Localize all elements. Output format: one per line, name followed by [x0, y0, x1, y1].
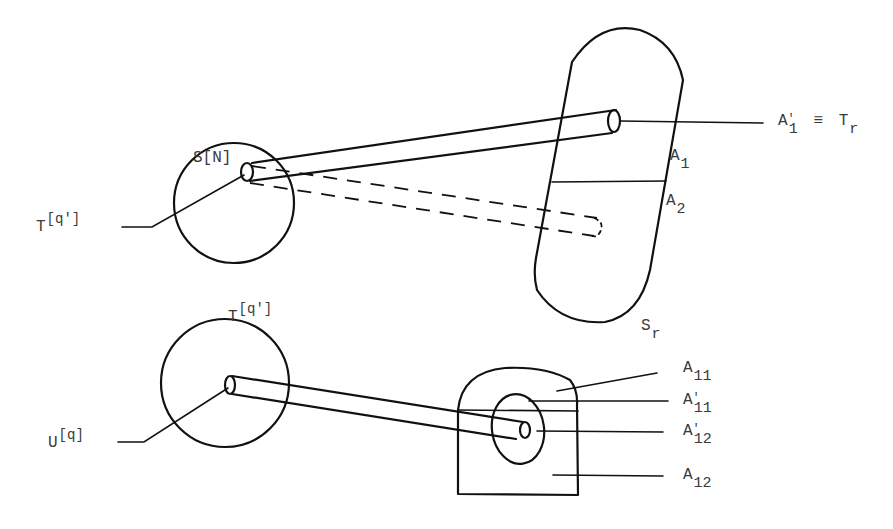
label-sup: [q']	[47, 211, 81, 227]
dashed-tube-cap	[592, 218, 602, 236]
region-boundary-a1-a2	[552, 181, 666, 182]
label-s-n: S[N]	[193, 150, 231, 166]
label-sub: 1	[681, 156, 690, 173]
label-t-q-prime-top: T[q']	[36, 212, 80, 235]
label-sub: r	[652, 326, 661, 343]
bottom-tube-start-cap	[225, 376, 235, 394]
label-base: T	[228, 308, 238, 326]
label-sub: 12	[694, 431, 712, 448]
label-base: A	[683, 466, 693, 484]
label-sup: [q]	[59, 427, 84, 443]
label-base: A	[778, 112, 788, 130]
leader-a12-prime	[537, 431, 663, 432]
label-a11: A11	[683, 360, 712, 384]
tube-start-cap	[241, 163, 253, 181]
label-base: T	[36, 218, 46, 236]
label-base: T	[839, 112, 849, 130]
label-a11-prime: A'11	[683, 392, 712, 416]
bottom-tube-top-edge	[232, 376, 523, 422]
label-base: A	[666, 192, 676, 210]
label-u-q: U[q]	[48, 428, 84, 451]
label-sub: 12	[694, 475, 712, 492]
sphere-s-n	[174, 143, 294, 263]
label-a2: A2	[666, 193, 686, 217]
label-base: A	[683, 359, 693, 377]
label-sub: 2	[677, 201, 686, 218]
label-a12-prime: A'12	[683, 423, 712, 447]
surface-s-r	[535, 28, 683, 322]
diagram-drawing	[0, 0, 893, 529]
label-sub: r	[849, 121, 858, 138]
leader-t-q-prime-top	[122, 175, 244, 227]
label-base: U	[48, 434, 58, 452]
label-prime: '	[788, 112, 795, 126]
label-op: ≡	[813, 112, 823, 130]
label-base: A	[683, 422, 693, 440]
diagram-canvas: S[N] T[q'] A1 A2 A'1 ≡ Tr Sr T[q'] U[q] …	[0, 0, 893, 529]
label-a1: A1	[670, 148, 690, 172]
leader-a12	[553, 475, 663, 476]
label-base: A	[683, 391, 693, 409]
tube-end-cap	[608, 110, 620, 132]
leader-u-q	[118, 388, 228, 442]
leader-a1-prime	[620, 121, 763, 123]
label-t-q-prime-bottom: T[q']	[228, 302, 272, 325]
label-sub: 11	[694, 400, 712, 417]
box-boundary	[458, 410, 578, 411]
inner-region-a-prime	[487, 391, 548, 468]
label-base: A	[670, 147, 680, 165]
bottom-tube-end-cap	[520, 422, 530, 438]
tube-top-edge	[252, 110, 616, 163]
label-a12: A12	[683, 467, 712, 491]
label-sup: [q']	[239, 301, 273, 317]
label-a1-prime-equiv-tr: A'1 ≡ Tr	[778, 113, 858, 137]
bottom-tube-bottom-edge	[232, 394, 516, 439]
label-sub: 11	[694, 368, 712, 385]
label-s-r: Sr	[641, 318, 661, 342]
label-base: S	[641, 317, 651, 335]
